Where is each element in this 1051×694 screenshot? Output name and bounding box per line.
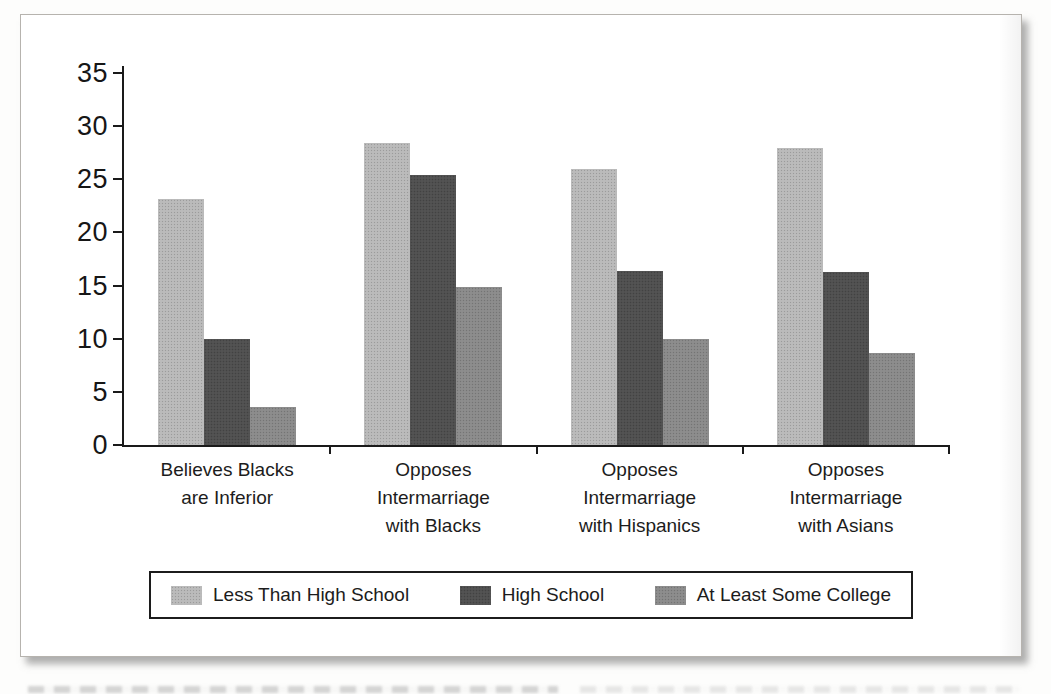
bar-less-than-high-school-opposes-intermarriage-with-blacks (364, 143, 410, 445)
bar-group-believes-blacks-are-inferior (124, 73, 330, 445)
bar-at-least-some-college-opposes-intermarriage-with-blacks (456, 287, 502, 445)
bar-less-than-high-school-opposes-intermarriage-with-hispanics (571, 169, 617, 445)
scan-artifact-bottom-right (580, 686, 1020, 693)
bar-high-school-believes-blacks-are-inferior (204, 339, 250, 445)
category-label-opposes-intermarriage-with-blacks: OpposesIntermarriagewith Blacks (330, 456, 536, 540)
legend-swatch-high-school (460, 586, 491, 605)
bar-group-opposes-intermarriage-with-asians (743, 73, 949, 445)
bar-group-opposes-intermarriage-with-blacks (330, 73, 536, 445)
legend-item-high-school: High School (460, 584, 604, 606)
bar-chart: 05101520253035 Believes Blacksare Inferi… (124, 73, 949, 445)
scan-artifact-bottom-left (28, 686, 558, 693)
y-tick (113, 338, 122, 340)
bar-at-least-some-college-believes-blacks-are-inferior (250, 407, 296, 445)
y-tick-label: 20 (54, 218, 108, 246)
bar-at-least-some-college-opposes-intermarriage-with-asians (869, 353, 915, 445)
y-tick (113, 285, 122, 287)
x-tick (742, 445, 744, 454)
category-label-opposes-intermarriage-with-asians: OpposesIntermarriagewith Asians (743, 456, 949, 540)
category-label-believes-blacks-are-inferior: Believes Blacksare Inferior (124, 456, 330, 540)
bar-high-school-opposes-intermarriage-with-blacks (410, 175, 456, 445)
legend: Less Than High SchoolHigh SchoolAt Least… (149, 571, 913, 619)
category-label-opposes-intermarriage-with-hispanics: OpposesIntermarriagewith Hispanics (537, 456, 743, 540)
bar-high-school-opposes-intermarriage-with-asians (823, 272, 869, 445)
y-tick-label: 30 (54, 112, 108, 140)
bar-high-school-opposes-intermarriage-with-hispanics (617, 271, 663, 445)
y-tick-label: 5 (54, 378, 108, 406)
y-tick-label: 25 (54, 165, 108, 193)
y-tick-label: 10 (54, 325, 108, 353)
x-tick (536, 445, 538, 454)
y-tick (113, 178, 122, 180)
legend-item-at-least-some-college: At Least Some College (655, 584, 891, 606)
legend-label: At Least Some College (697, 584, 891, 606)
y-tick (113, 72, 122, 74)
legend-label: Less Than High School (213, 584, 409, 606)
x-axis-labels: Believes Blacksare InferiorOpposesInterm… (124, 456, 949, 540)
bar-less-than-high-school-opposes-intermarriage-with-asians (777, 148, 823, 445)
bar-at-least-some-college-opposes-intermarriage-with-hispanics (663, 339, 709, 445)
y-tick (113, 125, 122, 127)
legend-label: High School (502, 584, 604, 606)
legend-swatch-less-than-high-school (171, 586, 202, 605)
y-tick-label: 0 (54, 431, 108, 459)
y-tick (113, 231, 122, 233)
figure-panel: 05101520253035 Believes Blacksare Inferi… (20, 14, 1022, 657)
y-tick-label: 15 (54, 272, 108, 300)
bar-group-opposes-intermarriage-with-hispanics (537, 73, 743, 445)
x-tick (948, 445, 950, 454)
plot-area: 05101520253035 (124, 73, 949, 445)
x-tick (329, 445, 331, 454)
bar-less-than-high-school-believes-blacks-are-inferior (158, 199, 204, 445)
legend-item-less-than-high-school: Less Than High School (171, 584, 409, 606)
y-tick (113, 444, 122, 446)
y-tick-label: 35 (54, 59, 108, 87)
y-tick (113, 391, 122, 393)
legend-swatch-at-least-some-college (655, 586, 686, 605)
